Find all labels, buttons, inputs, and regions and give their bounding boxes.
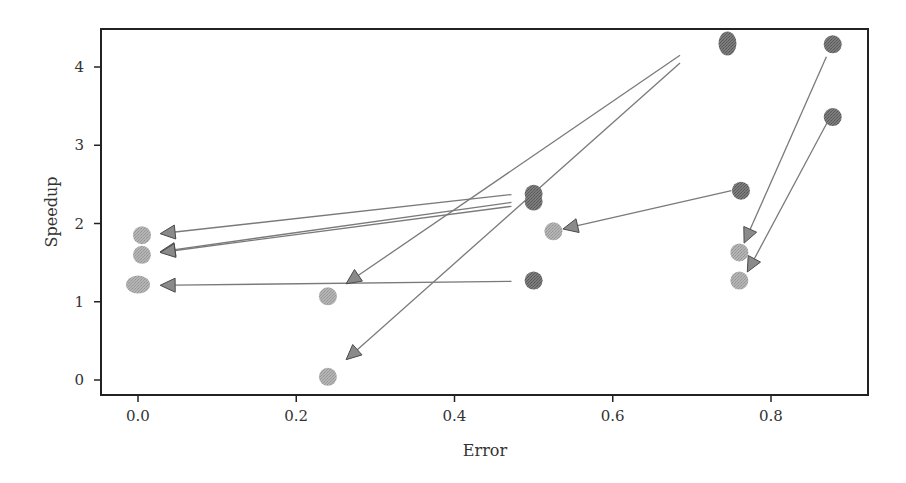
modified-point (730, 272, 748, 290)
modified-point (133, 226, 151, 244)
y-tick-label: 4 (74, 58, 84, 76)
original-point (525, 272, 543, 290)
modified-point (133, 246, 151, 264)
y-axis-ticks: 01234 (74, 58, 101, 389)
original-point (824, 35, 842, 53)
x-tick-label: 0.6 (601, 407, 625, 425)
y-tick-label: 0 (74, 371, 84, 389)
y-tick-label: 1 (74, 293, 84, 311)
x-axis-ticks: 0.00.20.40.60.8 (126, 395, 783, 425)
original-point (525, 193, 543, 211)
x-tick-label: 0.8 (759, 407, 783, 425)
modified-point (319, 368, 337, 386)
axes-frame (101, 29, 868, 395)
original-point (732, 182, 750, 200)
plot-area (101, 29, 868, 395)
x-tick-label: 0.0 (126, 407, 150, 425)
x-tick-label: 0.4 (443, 407, 467, 425)
modified-point (126, 276, 150, 294)
y-axis-label: Speedup (42, 177, 61, 248)
x-axis-label: Error (463, 441, 508, 460)
modified-point (730, 243, 748, 261)
modified-point (319, 287, 337, 305)
x-tick-label: 0.2 (284, 407, 308, 425)
scatter-chart: 0.00.20.40.60.8 01234 Error Speedup (0, 0, 906, 483)
original-point (718, 32, 736, 56)
y-tick-label: 3 (74, 136, 84, 154)
original-point (824, 108, 842, 126)
y-tick-label: 2 (74, 215, 84, 233)
modified-point (544, 222, 562, 240)
